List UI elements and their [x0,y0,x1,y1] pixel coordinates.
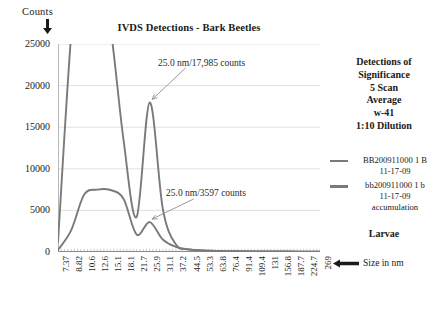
side-panel: Detections of Significance 5 Scan Averag… [330,56,438,239]
x-tick-label-text: 53.3 [206,256,215,312]
x-tick-label-text: 8.82 [75,256,84,312]
panel-heading-line: 1:10 Dilution [330,120,438,133]
x-tick-label-text: 7.37 [62,256,71,312]
x-tick-label-text: 21.7 [140,256,149,312]
legend-label-line: BB200911000 1 B [352,155,438,166]
x-tick-label: 15.1 [114,200,123,256]
y-tick-label: 25000 [4,39,50,49]
plot-area [58,44,320,252]
legend-label-line: accumulation [352,202,438,213]
x-tick-label-text: 187.7 [297,256,306,312]
x-tick-label: 76.4 [232,200,241,256]
legend-line-swatch [330,185,348,188]
x-tick-label-text: 224.7 [310,256,319,312]
x-tick-label: 31.1 [166,200,175,256]
x-tick-label-text: 269 [324,256,333,312]
x-tick-label-text: 91.4 [245,256,254,312]
chart-figure: Counts IVDS Detections - Bark Beetles 05… [0,0,440,318]
panel-heading-line: w-41 [330,107,438,120]
arrow-left-icon [333,259,359,268]
x-tick-label: 131 [271,200,280,256]
y-tick-label: 10000 [4,164,50,174]
x-tick-label-text: 25.9 [153,256,162,312]
x-tick-label-text: 18.1 [127,256,136,312]
legend-item-label: bb200911000 1 b 11-17-09 accumulation [352,180,438,214]
x-tick-label: 10.6 [88,200,97,256]
plot-canvas [58,44,320,252]
x-tick-label: 53.3 [206,200,215,256]
x-tick-label: 18.1 [127,200,136,256]
annotation-peak-upper: 25.0 nm/17,985 counts [158,58,245,68]
x-tick-label-text: 15.1 [114,256,123,312]
y-tick-label: 20000 [4,81,50,91]
x-tick-label: 63.8 [219,200,228,256]
x-tick-label-text: 10.6 [88,256,97,312]
x-tick-label: 25.9 [153,200,162,256]
x-tick-label: 44.5 [193,200,202,256]
x-tick-label: 91.4 [245,200,254,256]
arrow-down-icon [40,19,54,34]
panel-heading-line: Significance [330,69,438,82]
y-tick-label: 5000 [4,205,50,215]
legend-label-line: 11-17-09 [352,166,438,177]
annotation-peak-lower: 25.0 nm/3597 counts [166,188,246,198]
x-tick-label: 21.7 [140,200,149,256]
x-tick-label: 156.8 [284,200,293,256]
x-tick-label: 8.82 [75,200,84,256]
legend-item[interactable]: BB200911000 1 B 11-17-09 [330,155,438,177]
chart-legend: BB200911000 1 B 11-17-09 bb200911000 1 b… [330,155,438,214]
panel-heading: Detections of Significance 5 Scan Averag… [330,56,438,133]
y-tick-label: 0 [4,247,50,257]
y-tick-label: 15000 [4,122,50,132]
x-tick-label-text: 37.2 [179,256,188,312]
x-tick-label-text: 12.6 [101,256,110,312]
x-tick-label-text: 31.1 [166,256,175,312]
x-tick-label-text: 109.4 [258,256,267,312]
x-tick-label-text: 76.4 [232,256,241,312]
x-axis-caption: Size in nm [363,258,404,268]
x-tick-label: 109.4 [258,200,267,256]
x-tick-label: 37.2 [179,200,188,256]
legend-item-label: BB200911000 1 B 11-17-09 [352,155,438,177]
panel-heading-line: 5 Scan [330,82,438,95]
panel-heading-line: Average [330,94,438,107]
x-tick-label-text: 156.8 [284,256,293,312]
x-tick-label: 224.7 [310,200,319,256]
x-tick-label-text: 63.8 [219,256,228,312]
x-tick-label-text: 44.5 [193,256,202,312]
x-tick-label: 7.37 [62,200,71,256]
x-tick-label-text: 131 [271,256,280,312]
legend-label-line: bb200911000 1 b [352,180,438,191]
panel-footer-label: Larvae [330,228,438,239]
x-tick-label: 12.6 [101,200,110,256]
legend-line-swatch [330,160,348,163]
x-axis-caption-group: Size in nm [333,258,404,268]
panel-heading-line: Detections of [330,56,438,69]
x-tick-label: 187.7 [297,200,306,256]
chart-title: IVDS Detections - Bark Beetles [58,22,320,33]
y-axis-caption: Counts [22,6,53,17]
legend-item[interactable]: bb200911000 1 b 11-17-09 accumulation [330,180,438,214]
legend-label-line: 11-17-09 [352,191,438,202]
